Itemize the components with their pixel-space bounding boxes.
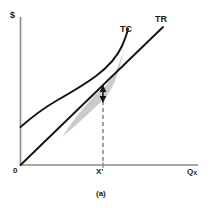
figure-panel-a: $ TC TR 0 X' QX (a) bbox=[0, 0, 212, 208]
x-star-axis-label: X' bbox=[96, 168, 103, 176]
chart-canvas bbox=[0, 0, 212, 208]
figure-caption: (a) bbox=[96, 190, 106, 198]
total-revenue-line-label: TR bbox=[155, 15, 167, 24]
total-cost-curve-label: TC bbox=[120, 25, 132, 34]
x-axis-label-subscript: X bbox=[193, 170, 197, 176]
origin-label: 0 bbox=[13, 167, 17, 175]
y-axis-label: $ bbox=[10, 11, 15, 20]
total-revenue-line bbox=[21, 27, 164, 165]
x-axis-label: QX bbox=[187, 168, 197, 177]
